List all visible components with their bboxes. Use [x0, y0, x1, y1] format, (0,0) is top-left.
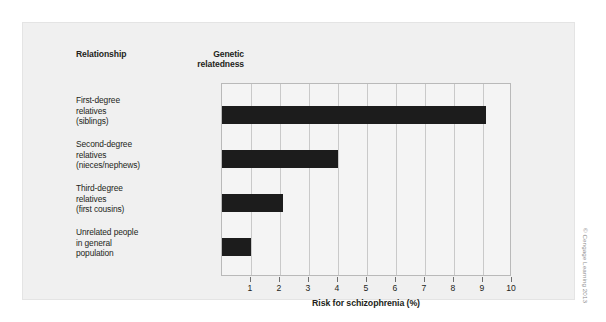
column-header-genetic-relatedness: Genetic relatedness: [136, 49, 244, 70]
x-axis-tick-label: 7: [409, 283, 439, 293]
copyright-credit: © Cengage Learning 2013: [582, 228, 589, 303]
x-axis-tick-label: 2: [264, 283, 294, 293]
x-axis-tick-label: 4: [322, 283, 352, 293]
row-label-line: relatives: [76, 106, 106, 116]
row-label-line: in general: [76, 238, 112, 248]
row-label-line: relatives: [76, 150, 106, 160]
row-label-line: Second-degree: [76, 139, 132, 149]
column-header-genetic-line1: Genetic: [213, 49, 244, 59]
x-axis-tick: [482, 277, 483, 282]
x-axis-tick: [395, 277, 396, 282]
x-axis-tick-label: 8: [438, 283, 468, 293]
x-axis-tick-label: 6: [380, 283, 410, 293]
x-axis-tick-label: 1: [235, 283, 265, 293]
x-axis-tick: [366, 277, 367, 282]
x-axis-tick: [279, 277, 280, 282]
chart-bar: [222, 238, 251, 256]
row-label-line: First-degree: [76, 95, 120, 105]
row-label-line: (siblings): [76, 116, 109, 126]
x-axis-tick: [250, 277, 251, 282]
row-label-line: (first cousins): [76, 204, 124, 214]
x-axis-tick: [308, 277, 309, 282]
column-header-relationship: Relationship: [76, 49, 126, 59]
row-label-line: population: [76, 248, 114, 258]
x-axis-tick-label: 5: [351, 283, 381, 293]
x-axis-tick-label: 9: [467, 283, 497, 293]
x-axis-tick: [511, 277, 512, 282]
row-label-line: Unrelated people: [76, 227, 138, 237]
x-axis-tick: [424, 277, 425, 282]
figure-panel: Relationship Genetic relatedness First-d…: [22, 22, 575, 300]
row-label-line: Third-degree: [76, 183, 123, 193]
row-label-line: (nieces/nephews): [76, 160, 140, 170]
chart-bar: [222, 194, 283, 212]
row-label-line: relatives: [76, 194, 106, 204]
x-axis-tick: [337, 277, 338, 282]
x-axis-tick-label: 10: [496, 283, 526, 293]
x-axis-tick: [453, 277, 454, 282]
x-axis-title: Risk for schizophrenia (%): [221, 298, 511, 308]
chart-bar: [222, 106, 486, 124]
column-header-genetic-line2: relatedness: [197, 59, 244, 69]
chart-plot-area: [221, 83, 511, 276]
x-axis-tick-label: 3: [293, 283, 323, 293]
chart-bar: [222, 150, 338, 168]
